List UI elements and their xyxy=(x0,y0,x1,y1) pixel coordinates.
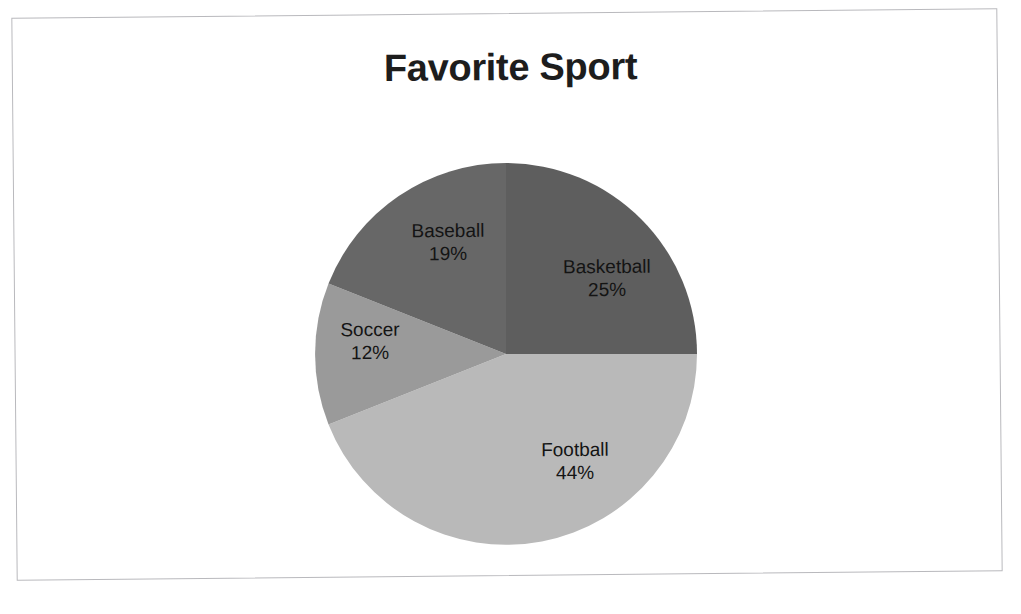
pie-label-soccer: Soccer 12% xyxy=(315,318,425,365)
pie-label-football: Football 44% xyxy=(495,437,655,484)
pie-label-football-name: Football xyxy=(495,437,655,461)
scanned-page: Favorite Sport Basketball 25% Football 4… xyxy=(0,0,1021,614)
pie-label-baseball: Baseball 19% xyxy=(378,219,518,266)
pie-chart: Favorite Sport Basketball 25% Football 4… xyxy=(0,0,1021,614)
pie-label-baseball-value: 19% xyxy=(378,242,518,266)
pie-label-baseball-name: Baseball xyxy=(378,219,518,243)
pie-label-basketball-value: 25% xyxy=(527,278,687,302)
pie-label-soccer-value: 12% xyxy=(315,341,425,365)
chart-title: Favorite Sport xyxy=(0,42,1021,92)
pie-label-soccer-name: Soccer xyxy=(315,318,425,342)
pie-label-basketball-name: Basketball xyxy=(527,254,687,278)
pie-label-basketball: Basketball 25% xyxy=(527,254,687,301)
pie-label-football-value: 44% xyxy=(495,461,655,485)
